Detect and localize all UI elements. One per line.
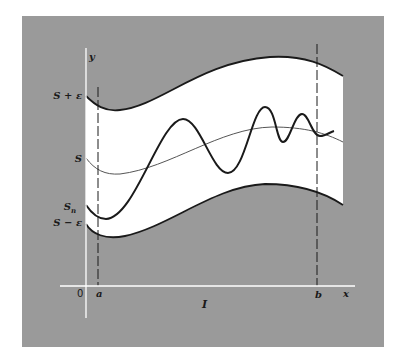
upper-bound-label: S + ε: [53, 90, 82, 101]
uniform-convergence-diagram: y x 0 a b I S + ε S S n S − ε: [0, 0, 402, 361]
point-b-label: b: [315, 289, 322, 300]
y-axis-label: y: [88, 51, 96, 62]
x-axis-label: x: [342, 288, 350, 299]
limit-function-label: S: [75, 153, 82, 164]
point-a-label: a: [96, 288, 102, 299]
interval-label: I: [201, 298, 208, 311]
partial-sum-subscript: n: [71, 206, 76, 215]
origin-label: 0: [77, 288, 83, 299]
lower-bound-label: S − ε: [53, 217, 82, 228]
partial-sum-label: S: [64, 201, 71, 212]
